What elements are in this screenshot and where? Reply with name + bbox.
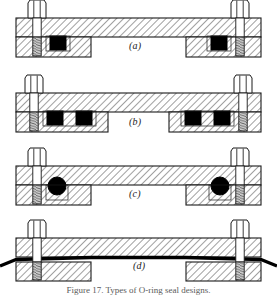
threaded-shank-left	[30, 112, 38, 131]
hex-head-bolt-right	[231, 148, 249, 166]
figure-caption: Figure 17. Types of O-ring seal designs.	[0, 285, 277, 295]
hex-head-bolt-left	[28, 0, 46, 18]
hex-head-bolt-left	[28, 148, 46, 166]
bolt-shank-right	[236, 238, 244, 262]
panel-label-a: (a)	[129, 40, 141, 51]
panel-label-d: (d)	[133, 260, 145, 271]
bolt-shank-right	[236, 18, 244, 37]
bolt-shank-left	[33, 238, 41, 262]
bolt-shank-right	[239, 93, 247, 112]
seal-square-left-outer	[76, 111, 92, 125]
threaded-shank-left	[33, 37, 41, 56]
lower-flange-plate-right	[186, 262, 261, 281]
seal-oring-right	[211, 177, 229, 195]
upper-flange-plate	[16, 18, 261, 37]
threaded-shank-right	[236, 37, 244, 56]
seal-oring-left	[48, 177, 66, 195]
hex-head-bolt-right	[231, 0, 249, 18]
seal-square-left	[50, 36, 66, 50]
seal-square-right-inner	[214, 111, 230, 125]
seal-square-right	[211, 36, 227, 50]
seal-square-right-outer	[185, 111, 201, 125]
bolt-shank-right	[236, 166, 244, 185]
seal-square-left-inner	[47, 111, 63, 125]
hex-head-bolt-left	[28, 220, 46, 238]
threaded-shank-right	[239, 112, 247, 131]
hex-head-bolt-right	[234, 75, 252, 93]
threaded-shank-right	[236, 262, 244, 280]
bolt-shank-left	[30, 93, 38, 112]
bolt-shank-left	[33, 166, 41, 185]
upper-flange-plate	[16, 93, 261, 112]
lower-flange-plate-left	[16, 262, 91, 281]
hex-head-bolt-left	[25, 75, 43, 93]
bolt-shank-left	[33, 18, 41, 37]
panel-label-c: (c)	[129, 188, 141, 199]
hex-head-bolt-right	[231, 220, 249, 238]
panel-label-b: (b)	[129, 116, 141, 127]
threaded-shank-right	[236, 185, 244, 204]
upper-flange-plate	[16, 238, 261, 257]
threaded-shank-left	[33, 185, 41, 204]
threaded-shank-left	[33, 262, 41, 280]
